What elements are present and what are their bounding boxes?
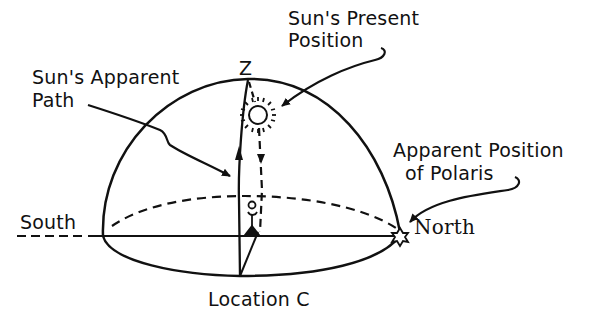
south-label: South: [20, 212, 76, 233]
leader-sun-apparent-path: [88, 105, 230, 176]
sun-descent-dashed-lower: [259, 128, 262, 232]
sun-icon: [240, 97, 276, 133]
dome-outline: [103, 79, 400, 236]
meridian-up-arrow: [235, 146, 243, 160]
north-label: North: [414, 217, 475, 238]
celestial-dome-diagram: Z Sun's Present Position Sun's Apparent …: [0, 0, 591, 323]
sun-down-arrow: [257, 154, 265, 164]
sightline: [240, 232, 258, 276]
horizon-ellipse-back: [112, 196, 396, 228]
sun-apparent-path-label-line2: Path: [32, 90, 75, 111]
sun-apparent-path-label-line1: Sun's Apparent: [32, 67, 179, 88]
observer-icon: [245, 202, 259, 236]
horizon-ellipse-front: [103, 236, 400, 276]
location-label: Location C: [208, 289, 310, 310]
leader-sun-present-position: [282, 48, 385, 106]
zenith-label: Z: [239, 58, 252, 79]
polaris-label-line1: Apparent Position: [393, 140, 564, 161]
polaris-label-line2: of Polaris: [405, 163, 494, 184]
sun-present-position-label-line1: Sun's Present: [288, 8, 419, 29]
sun-present-position-label-line2: Position: [288, 30, 364, 51]
